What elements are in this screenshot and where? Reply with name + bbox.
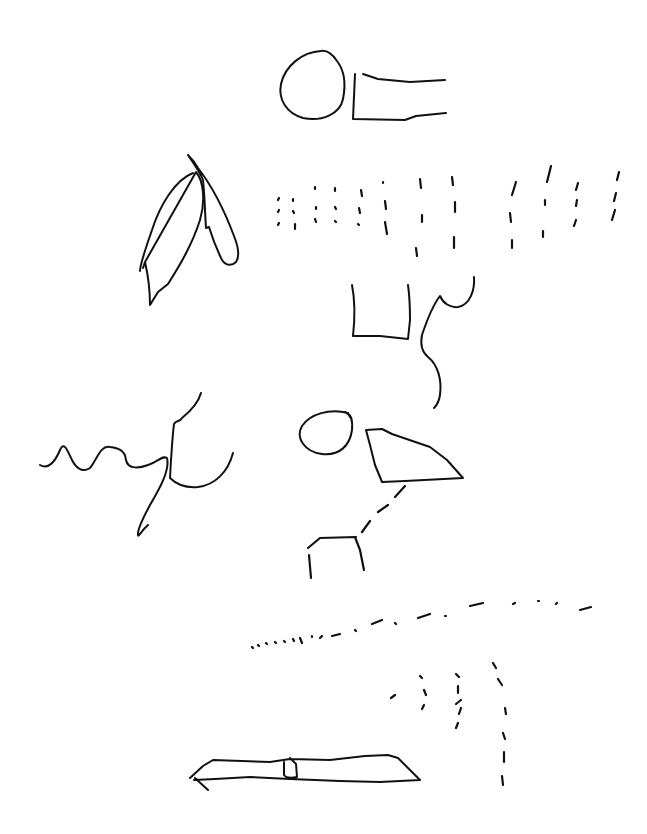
- u-shape: [352, 285, 410, 339]
- bottom-plank: [190, 755, 420, 790]
- quad-shape: [366, 429, 463, 482]
- number-grid: [278, 166, 619, 256]
- leaf-left: [140, 172, 203, 305]
- top-bracket-rect: [353, 74, 446, 120]
- hand-drawn-sketch: [0, 0, 647, 834]
- middle-circle: [300, 411, 352, 454]
- dashed-arcs: [391, 663, 506, 785]
- squiggle: [40, 393, 233, 536]
- top-circle: [280, 51, 344, 119]
- dashed-diagonal: [308, 486, 405, 578]
- s-curve: [421, 277, 474, 408]
- sketch-canvas: [0, 0, 647, 834]
- dotted-sloped-line: [252, 601, 591, 648]
